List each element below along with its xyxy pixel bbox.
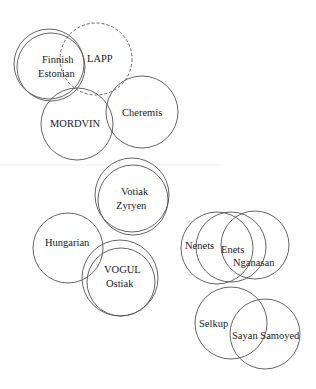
votiak-label: Zyryen [116,200,147,211]
mordvin-label: MORDVIN [50,118,101,129]
sayan-samoyed-label: Sayan Samoyed [232,330,300,341]
votiak-label: Votiak [121,186,149,197]
circles-diagram: FinnishEstonianLAPPMORDVINCheremisVotiak… [0,0,316,389]
enets-label: Enets [221,244,244,255]
finnish-label: Finnish [42,54,74,65]
hungarian-label: Hungarian [45,237,90,248]
lapp-label: LAPP [87,53,113,64]
finnish-label: Estonian [38,68,75,79]
selkup-label: Selkup [199,318,228,329]
cheremis-label: Cheremis [122,107,162,118]
vogul-label: VOGUL [104,264,141,275]
language-family-diagram: FinnishEstonianLAPPMORDVINCheremisVotiak… [0,0,316,389]
vogul-label: Ostiak [106,278,134,289]
nenets-label: Nenets [185,240,214,251]
finnish-circle [17,33,85,101]
hungarian-circle [33,213,103,283]
nganasan-label: Nganasan [233,257,275,268]
